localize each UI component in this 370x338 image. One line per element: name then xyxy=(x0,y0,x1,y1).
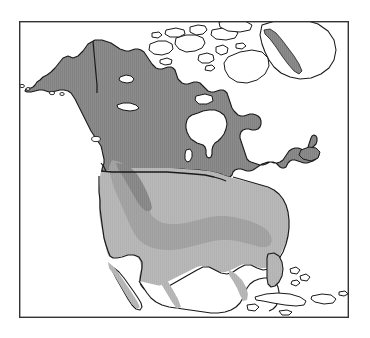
map-canvas xyxy=(0,0,370,338)
islet-b xyxy=(26,88,30,91)
great-slave-lake xyxy=(119,75,134,83)
southampton-island xyxy=(195,94,213,104)
banks-island xyxy=(149,41,173,55)
islet-d xyxy=(60,93,64,96)
prince-of-wales-island xyxy=(198,53,214,63)
lake-winnipeg xyxy=(185,149,192,162)
banks-small-a xyxy=(160,58,172,65)
range-map-figure xyxy=(0,0,370,338)
vancouver-island xyxy=(92,136,101,141)
melville-island xyxy=(165,28,185,37)
somerset-island xyxy=(216,45,228,55)
jamaica xyxy=(279,310,292,315)
islet-c xyxy=(49,91,54,94)
